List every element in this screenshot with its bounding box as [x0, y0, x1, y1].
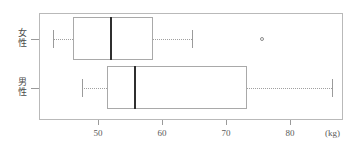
male-box	[107, 66, 247, 109]
category-label-male-char2: 性	[14, 87, 30, 97]
boxplot-figure: 女 性 男 性 50 60 70 80 (kg)	[0, 0, 363, 150]
x-axis-label-60: 60	[147, 128, 177, 138]
category-label-female: 女 性	[14, 28, 30, 48]
male-upper-whisker-line	[247, 88, 332, 89]
x-axis-tick-80	[290, 120, 291, 125]
y-axis-tick-female	[31, 39, 39, 40]
category-label-male: 男 性	[14, 77, 30, 97]
female-box	[73, 17, 153, 60]
female-median-line	[110, 17, 112, 60]
male-median-line	[134, 66, 136, 109]
category-label-female-char1: 女	[14, 28, 30, 38]
category-label-female-char2: 性	[14, 38, 30, 48]
x-axis-tick-70	[226, 120, 227, 125]
x-axis-label-80: 80	[275, 128, 305, 138]
female-lower-whisker-cap	[53, 30, 54, 48]
male-lower-whisker-line	[82, 88, 107, 89]
female-upper-whisker-line	[153, 39, 192, 40]
x-axis-unit-label: (kg)	[325, 128, 340, 138]
x-axis-label-70: 70	[211, 128, 241, 138]
x-axis-tick-50	[98, 120, 99, 125]
male-upper-whisker-cap	[332, 79, 333, 97]
x-axis-label-50: 50	[83, 128, 113, 138]
female-lower-whisker-line	[53, 39, 73, 40]
male-lower-whisker-cap	[82, 79, 83, 97]
female-outlier-point	[260, 37, 264, 41]
y-axis-tick-male	[31, 88, 39, 89]
category-label-male-char1: 男	[14, 77, 30, 87]
x-axis-tick-60	[162, 120, 163, 125]
female-upper-whisker-cap	[192, 30, 193, 48]
